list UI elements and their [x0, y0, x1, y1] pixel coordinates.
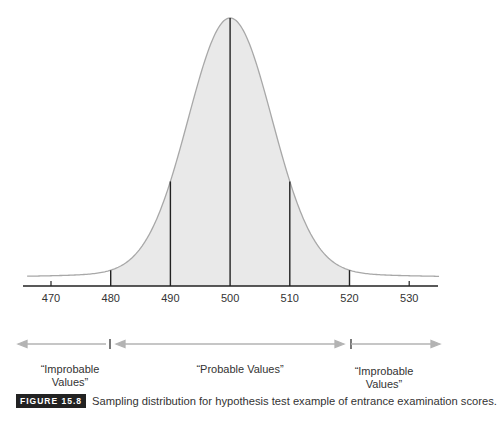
region-arrows [18, 339, 440, 349]
distribution-chart: 470480490500510520530 [0, 0, 477, 390]
right-region-label: “Improbable Values” [344, 365, 424, 391]
tick-label-470: 470 [42, 292, 60, 304]
tick-label-490: 490 [161, 292, 179, 304]
figure-caption: FIGURE 15.8 Sampling distribution for hy… [16, 394, 497, 408]
left-region-line2: Values” [30, 376, 110, 389]
right-region-line1: “Improbable [344, 365, 424, 378]
tick-label-520: 520 [340, 292, 358, 304]
left-region-label: “Improbable Values” [30, 363, 110, 389]
tick-label-530: 530 [400, 292, 418, 304]
tick-label-510: 510 [281, 292, 299, 304]
figure-label: FIGURE 15.8 [16, 394, 86, 408]
middle-region-label: “Probable Values” [180, 363, 300, 376]
tick-label-480: 480 [102, 292, 120, 304]
caption-text: Sampling distribution for hypothesis tes… [92, 395, 497, 407]
tick-label-500: 500 [221, 292, 239, 304]
right-region-line2: Values” [344, 378, 424, 391]
middle-region-text: “Probable Values” [180, 363, 300, 376]
left-region-line1: “Improbable [30, 363, 110, 376]
